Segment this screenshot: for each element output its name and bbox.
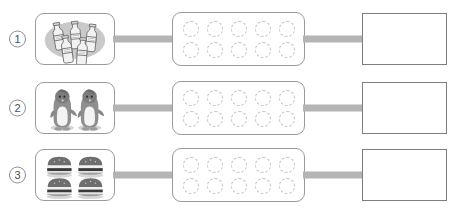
ten-frame-row-top <box>183 157 295 173</box>
connector-bar-left-row-3 <box>113 172 172 179</box>
frame-circle[interactable] <box>207 157 223 173</box>
connector-bar-left-row-1 <box>113 36 172 43</box>
frame-circle[interactable] <box>255 178 271 194</box>
frame-circle[interactable] <box>231 157 247 173</box>
ten-frame-row-2 <box>172 81 305 135</box>
penguin-group-icon <box>36 83 114 134</box>
frame-circle[interactable] <box>255 111 271 127</box>
connector-bar-right-row-3 <box>303 172 363 179</box>
frame-circle[interactable] <box>279 157 295 173</box>
milk-bottle-group-icon <box>36 14 114 65</box>
row-index-3: 3 <box>9 167 26 184</box>
worksheet-row: 3 <box>0 144 472 206</box>
ten-frame-row-top <box>183 21 295 37</box>
ten-frame-row-bottom <box>183 178 295 194</box>
connector-bar-right-row-1 <box>303 36 363 43</box>
frame-circle[interactable] <box>279 111 295 127</box>
frame-circle[interactable] <box>183 42 199 58</box>
frame-circle[interactable] <box>183 111 199 127</box>
frame-circle[interactable] <box>207 42 223 58</box>
frame-circle[interactable] <box>231 90 247 106</box>
frame-circle[interactable] <box>279 90 295 106</box>
answer-box-row-3[interactable] <box>362 149 447 201</box>
frame-circle[interactable] <box>279 21 295 37</box>
frame-circle[interactable] <box>207 178 223 194</box>
picture-box-row-1 <box>35 13 115 65</box>
row-index-2: 2 <box>9 100 26 117</box>
frame-circle[interactable] <box>231 111 247 127</box>
frame-circle[interactable] <box>279 42 295 58</box>
frame-circle[interactable] <box>279 178 295 194</box>
ten-frame-row-top <box>183 90 295 106</box>
answer-box-row-2[interactable] <box>362 82 447 134</box>
answer-box-row-1[interactable] <box>362 13 447 65</box>
frame-circle[interactable] <box>231 21 247 37</box>
hamburger-group-icon <box>36 150 114 201</box>
ten-frame-row-bottom <box>183 111 295 127</box>
picture-box-row-2 <box>35 82 115 134</box>
picture-box-row-3 <box>35 149 115 201</box>
ten-frame-row-bottom <box>183 42 295 58</box>
frame-circle[interactable] <box>183 157 199 173</box>
ten-frame-row-3 <box>172 148 305 202</box>
row-index-1: 1 <box>9 31 26 48</box>
connector-bar-right-row-2 <box>303 105 363 112</box>
frame-circle[interactable] <box>255 21 271 37</box>
frame-circle[interactable] <box>183 90 199 106</box>
frame-circle[interactable] <box>183 178 199 194</box>
frame-circle[interactable] <box>231 42 247 58</box>
counting-worksheet: 1 <box>0 0 472 209</box>
frame-circle[interactable] <box>255 157 271 173</box>
worksheet-row: 1 <box>0 8 472 70</box>
frame-circle[interactable] <box>255 90 271 106</box>
frame-circle[interactable] <box>207 21 223 37</box>
frame-circle[interactable] <box>207 111 223 127</box>
connector-bar-left-row-2 <box>113 105 172 112</box>
frame-circle[interactable] <box>231 178 247 194</box>
frame-circle[interactable] <box>183 21 199 37</box>
ten-frame-row-1 <box>172 12 305 66</box>
worksheet-row: 2 <box>0 77 472 139</box>
frame-circle[interactable] <box>207 90 223 106</box>
frame-circle[interactable] <box>255 42 271 58</box>
